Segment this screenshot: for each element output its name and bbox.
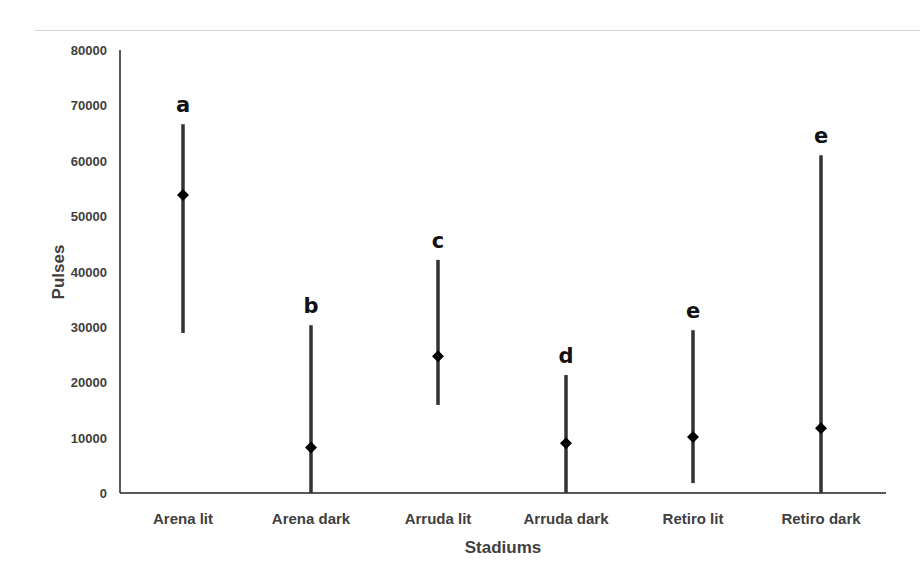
significance-letter: c (432, 229, 444, 253)
y-tick-label: 50000 (71, 209, 107, 224)
y-axis-title: Pulses (49, 245, 68, 300)
diamond-marker (560, 437, 572, 449)
y-tick-label: 80000 (71, 43, 107, 58)
diamond-marker (177, 189, 189, 201)
significance-letter: a (176, 93, 190, 117)
y-axis-ticks: 0100002000030000400005000060000700008000… (71, 43, 107, 501)
y-tick-label: 70000 (71, 98, 107, 113)
x-axis-categories: Arena litArena darkArruda litArruda dark… (153, 510, 861, 527)
x-category-label: Arena lit (153, 510, 213, 527)
x-axis-title: Stadiums (465, 538, 542, 557)
x-category-label: Arena dark (272, 510, 351, 527)
y-tick-label: 0 (100, 486, 107, 501)
y-tick-label: 10000 (71, 431, 107, 446)
y-tick-label: 60000 (71, 154, 107, 169)
error-bar-group: e (686, 299, 700, 483)
x-category-label: Arruda lit (405, 510, 472, 527)
significance-letter: d (558, 344, 573, 368)
x-category-label: Arruda dark (523, 510, 609, 527)
diamond-marker (687, 431, 699, 443)
y-tick-label: 20000 (71, 375, 107, 390)
significance-letter: b (303, 294, 318, 318)
data-series: abcdee (176, 93, 828, 493)
error-bar-group: b (303, 294, 318, 493)
x-category-label: Retiro dark (781, 510, 861, 527)
significance-letter: e (814, 124, 828, 148)
error-bar-group: e (814, 124, 828, 493)
error-bar-group: c (432, 229, 444, 405)
error-bar-group: d (558, 344, 573, 493)
significance-letter: e (686, 299, 700, 323)
x-category-label: Retiro lit (663, 510, 724, 527)
diamond-marker (815, 422, 827, 434)
error-bar-chart: 0100002000030000400005000060000700008000… (0, 0, 920, 580)
diamond-marker (305, 442, 317, 454)
y-tick-label: 40000 (71, 265, 107, 280)
y-tick-label: 30000 (71, 320, 107, 335)
diamond-marker (432, 350, 444, 362)
error-bar-group: a (176, 93, 190, 333)
